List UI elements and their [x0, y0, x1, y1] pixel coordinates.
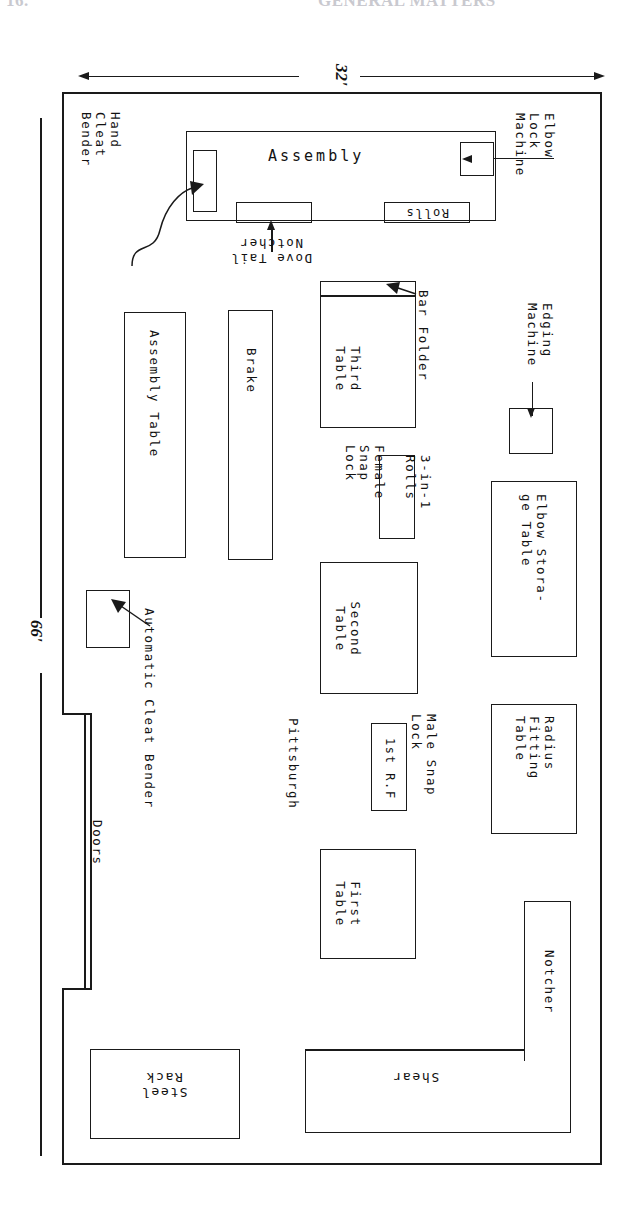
wall-left-lower	[62, 988, 64, 1165]
notcher-label: Notcher	[542, 950, 557, 1014]
elbow-lock-machine-label: Elbow Lock Machine	[513, 113, 557, 177]
pittsburgh-label: Pittsburgh	[286, 718, 301, 809]
wall-left-upper	[62, 92, 64, 715]
elbow-lock-machine-leader-head	[462, 155, 472, 163]
wall-left-jog-bottom	[62, 988, 86, 990]
male-snap-lock-label: Male Snap Lock	[409, 714, 438, 796]
assembly-label: Assembly	[268, 148, 364, 165]
assembly-table-label: Assembly Table	[147, 330, 162, 458]
second-table-label: Second Table	[333, 586, 362, 672]
length-dimension-line-top	[40, 118, 42, 618]
wall-right	[600, 92, 602, 1165]
length-dimension-line-bottom	[40, 673, 42, 1156]
first-table-label: First Table	[333, 868, 362, 940]
floor-plan-diagram: 32' 66' Doors Assembly Hand Cleat Bender…	[0, 0, 637, 1224]
dove-tail-notcher-label: Dove Tail Notcher	[196, 236, 346, 265]
radius-fitting-table-label: Radius Fitting Table	[513, 716, 557, 780]
width-dimension-line-left	[89, 76, 299, 78]
shear-unit	[305, 1049, 571, 1133]
doors-leaf-outer	[84, 715, 86, 990]
edging-machine-leader-head	[527, 408, 535, 418]
brake-label: Brake	[244, 348, 259, 394]
bar-folder-label: Bar Folder	[416, 290, 431, 381]
wall-top	[62, 92, 602, 94]
width-dimension-arrow-right	[594, 72, 605, 80]
automatic-cleat-bender-label: Automatic Cleat Bender	[142, 608, 157, 809]
shear-label: Shear	[392, 1070, 439, 1085]
doors-cap-top	[84, 713, 92, 715]
wall-bottom	[62, 1163, 602, 1165]
third-table-label: Third Table	[333, 322, 362, 416]
rolls-label: Rolls	[390, 205, 464, 219]
dove-tail-notcher-leader-head	[267, 220, 275, 230]
three-in-one-rolls-label: 3-in-1 Rolls	[403, 455, 432, 510]
elbow-storage-table-label: Elbow Stora- ge Table	[519, 494, 548, 604]
shear-top-edge	[305, 1049, 525, 1051]
steel-rack-label: Steel Rack	[112, 1070, 216, 1100]
hand-cleat-bender-label: Hand Cleat Bender	[79, 112, 123, 167]
width-dimension-label: 32'	[331, 64, 351, 86]
wall-left-jog-top	[62, 713, 86, 715]
length-dimension-label: 66'	[26, 620, 46, 642]
doors-label: Doors	[90, 820, 105, 866]
width-dimension-arrow-left	[78, 72, 89, 80]
width-dimension-line-right	[360, 76, 594, 78]
bar-folder-leader	[380, 280, 420, 300]
first-rf-label: 1st R.F	[382, 738, 396, 800]
edging-machine-label: Edging Machine	[525, 303, 554, 367]
